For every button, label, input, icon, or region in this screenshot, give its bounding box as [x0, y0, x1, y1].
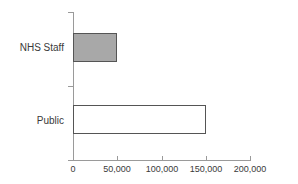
category-axis-tick: [68, 12, 73, 13]
category-label-public: Public: [37, 115, 64, 126]
bar-nhs-staff: [73, 33, 117, 62]
value-axis-tick-label: 50,000: [103, 164, 131, 174]
value-axis-tick: [162, 156, 163, 161]
category-label-nhs-staff: NHS Staff: [20, 42, 64, 53]
value-axis-tick-label: 150,000: [190, 164, 223, 174]
value-axis-tick: [206, 156, 207, 161]
value-axis-tick: [250, 156, 251, 161]
value-axis-tick-label: 0: [70, 164, 75, 174]
bar-public: [73, 105, 206, 134]
value-axis-tick: [73, 156, 74, 161]
category-axis-tick: [68, 86, 73, 87]
value-axis-tick-label: 100,000: [146, 164, 179, 174]
value-axis-tick: [117, 156, 118, 161]
value-axis-tick-label: 200,000: [234, 164, 267, 174]
bar-chart: 0 50,000 100,000 150,000 200,000 NHS Sta…: [0, 0, 298, 184]
